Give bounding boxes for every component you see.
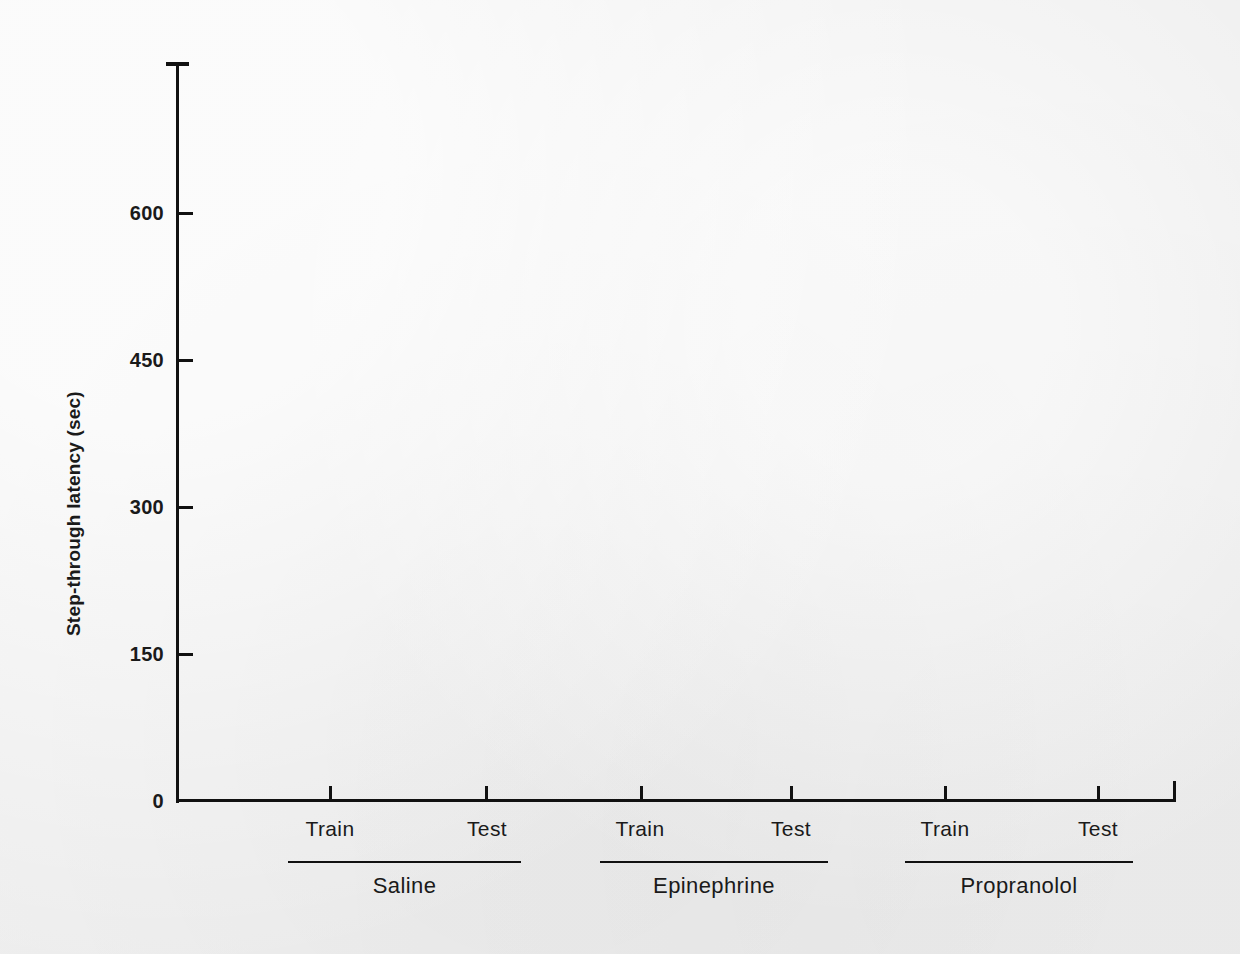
y-axis-title: Step-through latency (sec)	[64, 391, 83, 636]
y-tick-label-300: 300	[130, 497, 164, 517]
y-tick-label-150: 150	[130, 644, 164, 664]
group-rule-saline	[288, 861, 521, 863]
group-label-saline: Saline	[288, 875, 521, 897]
plot-area: Axes and category labels only; no data m…	[179, 62, 1174, 799]
phase-label-saline-test: Test	[432, 818, 542, 839]
group-rule-propranolol	[905, 861, 1133, 863]
group-rule-epinephrine	[600, 861, 828, 863]
group-label-propranolol: Propranolol	[905, 875, 1133, 897]
phase-label-propranolol-test: Test	[1043, 818, 1153, 839]
phase-label-epinephrine-train: Train	[585, 818, 695, 839]
x-axis-line	[176, 799, 1176, 802]
y-tick-label-0: 0	[153, 791, 164, 811]
phase-label-saline-train: Train	[275, 818, 385, 839]
y-tick-label-600: 600	[130, 203, 164, 223]
y-tick-label-450: 450	[130, 350, 164, 370]
phase-label-epinephrine-test: Test	[736, 818, 846, 839]
figure-canvas: 600 450 300 150 0 Step-through latency (…	[0, 0, 1240, 954]
group-label-epinephrine: Epinephrine	[600, 875, 828, 897]
phase-label-propranolol-train: Train	[890, 818, 1000, 839]
